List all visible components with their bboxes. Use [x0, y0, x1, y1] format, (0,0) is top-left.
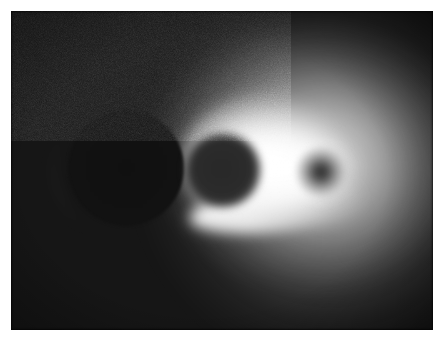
film-grain-overlay — [11, 11, 291, 141]
bright-core-tail — [241, 129, 391, 209]
film-grain-overlay-highlights — [11, 11, 291, 141]
outer-halo — [131, 11, 433, 330]
figure-canvas — [0, 0, 442, 341]
tail-streak — [187, 177, 366, 242]
photographic-plate — [11, 11, 433, 330]
corner-vignette — [11, 11, 433, 330]
plate-edge — [11, 11, 433, 330]
outer-halo-inner — [161, 21, 433, 291]
small-spot-rim — [287, 138, 355, 206]
small-spot — [296, 147, 346, 197]
large-ring — [64, 106, 188, 230]
bright-core — [179, 93, 369, 233]
middle-disc — [186, 133, 260, 207]
large-disc — [68, 110, 184, 226]
large-ring-bloom — [52, 94, 200, 242]
